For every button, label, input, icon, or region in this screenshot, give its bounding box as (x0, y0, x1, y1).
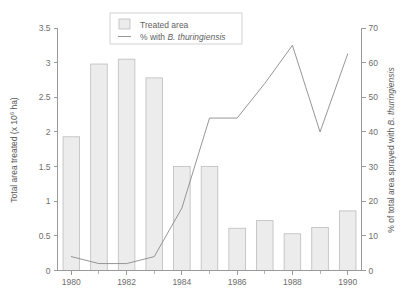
x-tick-label-1980: 1980 (62, 277, 81, 287)
chart-container: Total area treated (x 106 ha) % of total… (0, 0, 403, 301)
y-axis-left-title: Total area treated (x 106 ha) (9, 97, 19, 203)
y-left-tick-label-1: 1 (46, 196, 51, 206)
bar-1985 (201, 167, 218, 271)
y-right-tick-label-10: 10 (369, 231, 379, 241)
y-right-tick-label-0: 0 (369, 266, 374, 276)
x-tick-label-1982: 1982 (117, 277, 136, 287)
y-right-tick-label-30: 30 (369, 162, 379, 172)
chart-svg: Total area treated (x 106 ha) % of total… (0, 0, 403, 301)
bar-1988 (284, 234, 301, 271)
y-left-tick-label-0: 0 (46, 266, 51, 276)
y-tick-labels-left: 00.511.522.533.5 (39, 23, 51, 276)
legend: Treated area % with B. thuringiensis (110, 13, 242, 44)
y-axis-right-title: % of total area sprayed with B. thuringi… (386, 67, 396, 233)
bar-1987 (256, 221, 273, 271)
y-axis-left (54, 28, 58, 271)
x-tick-label-1984: 1984 (172, 277, 191, 287)
bar-1981 (91, 64, 108, 270)
y-tick-labels-right: 010203040506070 (369, 23, 379, 276)
bar-1990 (339, 211, 356, 271)
y-left-tick-label-3.5: 3.5 (39, 23, 51, 33)
plot-bars (63, 59, 356, 270)
y-left-tick-label-3: 3 (46, 58, 51, 68)
y-right-tick-label-40: 40 (369, 127, 379, 137)
bar-1986 (229, 228, 246, 270)
x-tick-label-1988: 1988 (283, 277, 302, 287)
x-tick-label-1986: 1986 (228, 277, 247, 287)
y-right-tick-label-70: 70 (369, 23, 379, 33)
y-left-tick-label-0.5: 0.5 (39, 231, 51, 241)
y-right-tick-label-20: 20 (369, 196, 379, 206)
y-right-tick-label-50: 50 (369, 92, 379, 102)
bar-1982 (118, 59, 135, 270)
legend-label-percent: % with B. thuringiensis (140, 32, 226, 42)
x-tick-label-1990: 1990 (338, 277, 357, 287)
y-left-tick-label-1.5: 1.5 (39, 162, 51, 172)
legend-label-treated-area: Treated area (140, 20, 189, 30)
y-axis-right (362, 28, 366, 271)
bar-1989 (312, 228, 329, 271)
bar-1980 (63, 137, 80, 271)
x-tick-labels: 198019821984198619881990 (62, 277, 358, 287)
x-axis (57, 271, 362, 275)
y-left-tick-label-2.5: 2.5 (39, 92, 51, 102)
bar-1983 (146, 78, 163, 271)
y-right-tick-label-60: 60 (369, 58, 379, 68)
legend-swatch-treated-area (119, 19, 130, 29)
y-left-tick-label-2: 2 (46, 127, 51, 137)
